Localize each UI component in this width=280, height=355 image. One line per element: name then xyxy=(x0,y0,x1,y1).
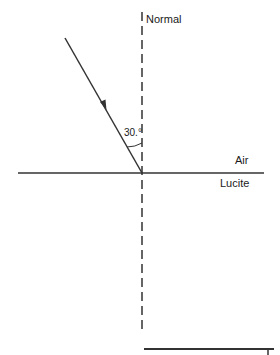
angle-arc xyxy=(127,143,142,147)
refraction-diagram: Normal 30.° Air Lucite xyxy=(0,0,280,355)
lucite-label: Lucite xyxy=(220,178,249,189)
angle-label: 30.° xyxy=(124,128,142,138)
air-label: Air xyxy=(235,155,248,166)
normal-label: Normal xyxy=(146,14,181,25)
